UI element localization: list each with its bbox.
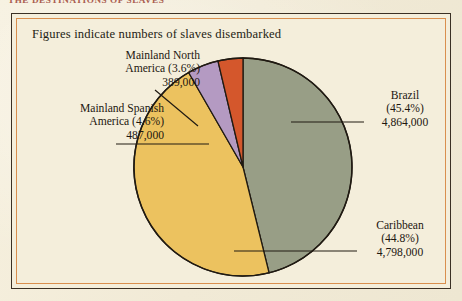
label-name-line1: Caribbean xyxy=(350,219,450,232)
label-name-line2: America (3.6%) xyxy=(50,62,200,75)
label-name-line1: Brazil xyxy=(357,89,453,102)
running-head-title: THE DESTINATIONS OF SLAVES xyxy=(8,0,164,6)
label-value: 487,000 xyxy=(14,129,164,142)
label-caribbean: Caribbean (44.8%) 4,798,000 xyxy=(350,219,450,259)
label-name-line2: (44.8%) xyxy=(350,232,450,245)
label-name-line1: Mainland Spanish xyxy=(14,102,164,115)
label-name-line2: (45.4%) xyxy=(357,102,453,115)
label-mainland-north-america: Mainland North America (3.6%) 389,000 xyxy=(50,49,200,89)
label-value: 4,864,000 xyxy=(357,116,453,129)
label-value: 389,000 xyxy=(50,76,200,89)
label-mainland-spanish-america: Mainland Spanish America (4.6%) 487,000 xyxy=(14,102,164,142)
label-brazil: Brazil (45.4%) 4,864,000 xyxy=(357,89,453,129)
label-name-line1: Mainland North xyxy=(50,49,200,62)
chart-frame: Figures indicate numbers of slaves disem… xyxy=(11,13,451,289)
figure-root: THE DESTINATIONS OF SLAVES Figures indic… xyxy=(0,0,462,301)
label-value: 4,798,000 xyxy=(350,246,450,259)
label-name-line2: America (4.6%) xyxy=(14,115,164,128)
